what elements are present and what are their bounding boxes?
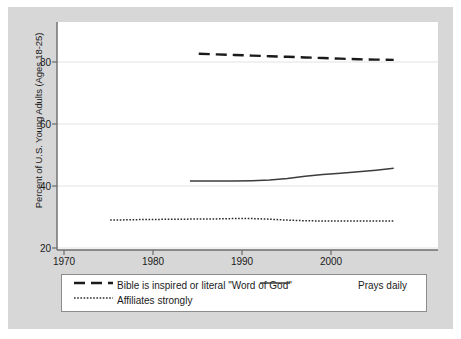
x-axis-ticks [64, 250, 331, 255]
chart-figure: Percent of U.S. Young Adults (Ages 18-25… [0, 0, 461, 339]
axis-spines [57, 22, 438, 250]
chart-vector-layer [0, 0, 461, 339]
data-series-layer [110, 54, 394, 221]
y-axis-ticks [52, 62, 57, 248]
legend-sample-lines [74, 283, 290, 298]
series-line-prays-daily [190, 168, 394, 181]
series-line-affiliates-strongly [110, 219, 394, 221]
series-line-bible [199, 54, 394, 60]
